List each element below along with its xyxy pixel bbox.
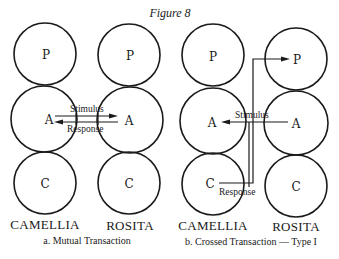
arrow-left-icon — [54, 120, 63, 125]
response-label: Response — [67, 124, 103, 134]
stimulus-label: Stimulus — [70, 104, 104, 114]
adult-label: A — [124, 114, 134, 128]
rosita-name: ROSITA — [272, 219, 320, 234]
response-label: Response — [219, 187, 255, 197]
rosita-ego-states-a: P A C — [97, 24, 163, 214]
stimulus-label: Stimulus — [235, 110, 269, 120]
camellia-name: CAMELLIA — [10, 217, 80, 232]
child-label: C — [291, 180, 300, 194]
diagram-mutual-transaction: P A C P A C Stimulus Response CA — [10, 23, 163, 246]
crossed-response-arrow: Response — [219, 57, 290, 198]
adult-label: A — [44, 113, 54, 127]
mutual-arrows: Stimulus Response — [54, 104, 118, 134]
figure-canvas: Figure 8 P A C P A C — [0, 0, 339, 259]
arrow-right-icon — [281, 57, 290, 62]
parent-label: P — [126, 49, 134, 63]
adult-label: A — [207, 116, 217, 130]
diagram-crossed-transaction: P A C P A C Stimulus Response CAMELLIA R — [178, 24, 328, 247]
parent-label: P — [42, 48, 50, 62]
camellia-name: CAMELLIA — [178, 218, 248, 233]
parent-label: P — [209, 50, 217, 64]
child-label: C — [40, 177, 49, 191]
crossed-stimulus-arrow: Stimulus — [221, 110, 288, 125]
child-label: C — [124, 177, 133, 191]
caption-crossed-transaction: b. Crossed Transaction — Type I — [185, 236, 317, 247]
adult-label: A — [291, 117, 301, 131]
camellia-ego-states-a: P A C — [11, 23, 77, 214]
child-label: C — [205, 177, 214, 191]
figure-title: Figure 8 — [148, 6, 190, 20]
parent-label: P — [293, 53, 301, 67]
rosita-name: ROSITA — [106, 218, 154, 233]
arrow-left-icon — [221, 120, 230, 125]
arrow-right-icon — [109, 114, 118, 119]
caption-mutual-transaction: a. Mutual Transaction — [43, 235, 131, 246]
